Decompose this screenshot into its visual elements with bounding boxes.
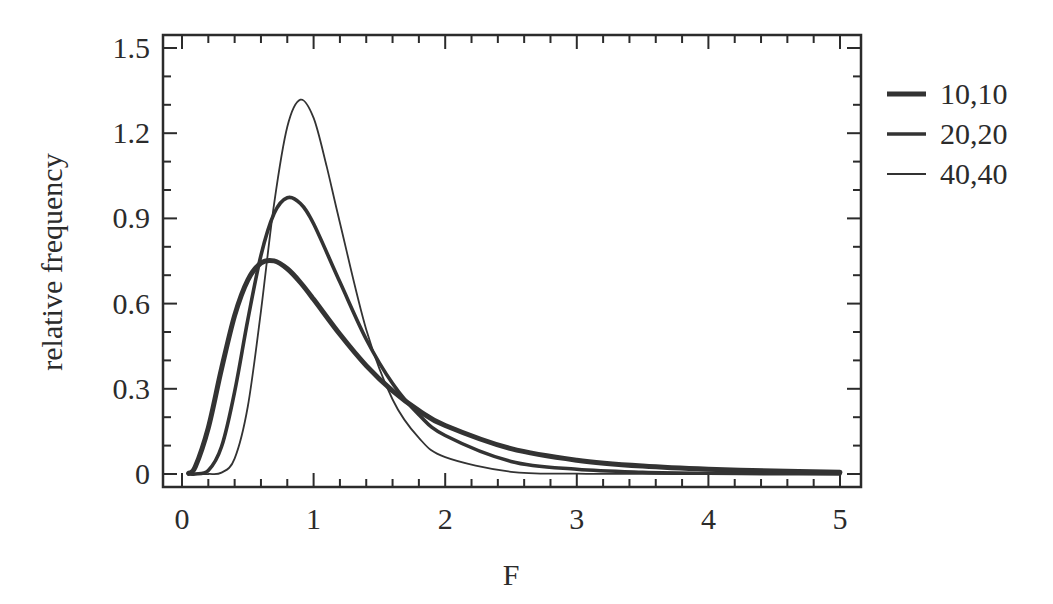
y-tick-label: 0 [135, 457, 150, 490]
x-tick-label: 4 [701, 502, 716, 535]
chart: 012345 00.30.60.91.21.5 F relative frequ… [0, 0, 1053, 604]
legend-item: 40,40 [887, 157, 1008, 190]
x-axis-title: F [503, 558, 520, 591]
legend: 10,1020,2040,40 [887, 77, 1008, 190]
series-line-20-20 [189, 197, 840, 474]
legend-label: 20,20 [940, 117, 1008, 150]
y-tick-label: 0.3 [113, 372, 151, 405]
x-tick-label: 5 [833, 502, 848, 535]
legend-label: 10,10 [940, 77, 1008, 110]
x-tick-label: 2 [438, 502, 453, 535]
legend-label: 40,40 [940, 157, 1008, 190]
y-axis-title: relative frequency [35, 153, 68, 370]
series-lines [189, 100, 840, 475]
series-line-10-10 [189, 260, 840, 473]
y-tick-label: 1.5 [113, 31, 151, 64]
legend-item: 10,10 [887, 77, 1008, 110]
y-axis-ticks: 00.30.60.91.21.5 [113, 31, 862, 490]
legend-item: 20,20 [887, 117, 1008, 150]
series-line-40-40 [189, 100, 840, 475]
x-tick-label: 3 [569, 502, 584, 535]
y-tick-label: 1.2 [113, 116, 151, 149]
x-tick-label: 0 [175, 502, 190, 535]
y-tick-label: 0.9 [113, 201, 151, 234]
y-tick-label: 0.6 [113, 287, 151, 320]
x-tick-label: 1 [306, 502, 321, 535]
